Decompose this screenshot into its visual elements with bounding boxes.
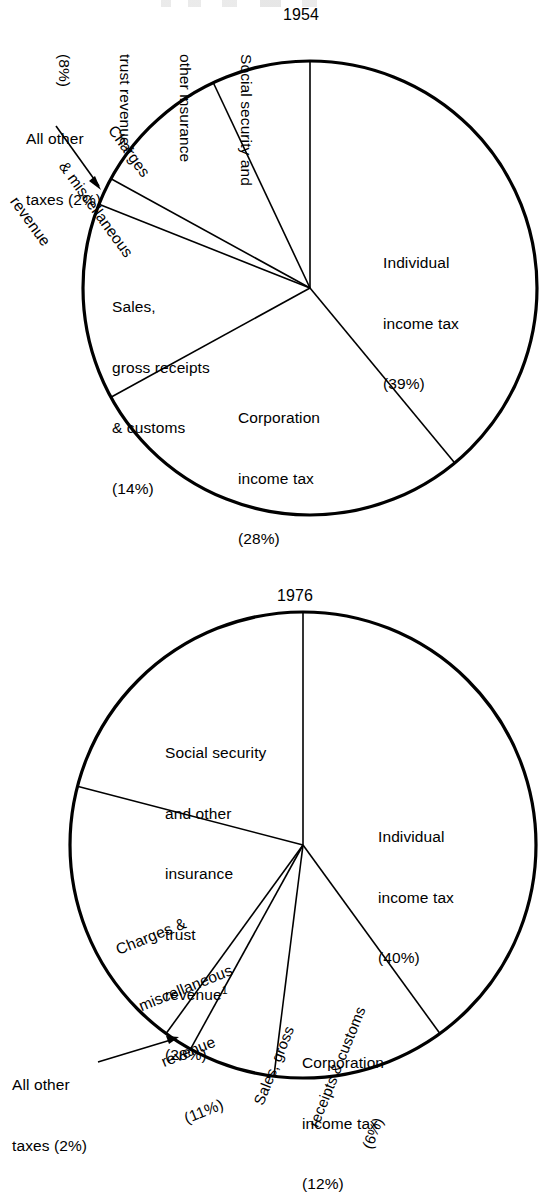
pie-1976-individual-line1: Individual xyxy=(378,827,454,847)
pie-1954-social-label: Social security and other insurance trus… xyxy=(14,54,296,186)
pie-1954-sales-line4: (14%) xyxy=(112,479,210,499)
pie-1976-sales-line1: Sales, gross xyxy=(249,981,315,1107)
pie-1976-sales-line2: receipts & customs xyxy=(303,1003,369,1129)
pie-1976-charges-line1: Charges & xyxy=(113,904,213,960)
pie-1976-year-title: 1976 xyxy=(277,586,313,607)
pie-1954-social-line4: (8%) xyxy=(54,54,74,186)
pie-1954-charges-line3: revenue xyxy=(5,193,89,297)
pie-1954-individual-line2: income tax xyxy=(383,314,459,334)
pie-1954-corporation-line3: (28%) xyxy=(238,529,320,549)
pie-1976-allother-line2: taxes (2%) xyxy=(12,1136,87,1156)
pie-1954-corporation-label: Corporation income tax (28%) xyxy=(238,368,320,590)
pie-1954-sales-line1: Sales, xyxy=(112,297,210,317)
pie-1976-social-line2: and other xyxy=(165,804,266,824)
pie-1954-individual-label: Individual income tax (39%) xyxy=(383,213,459,435)
pie-1954-social-line2: other insurance xyxy=(175,54,195,186)
pie-1954-corporation-line1: Corporation xyxy=(238,408,320,428)
pie-1976-charges-line2: miscellaneous xyxy=(136,960,236,1016)
pie-1954-social-line3: trust revenue xyxy=(117,54,134,146)
pie-1954-social-footnote-marker: 1 xyxy=(124,146,136,152)
pie-1976-sales-line3: (6%) xyxy=(358,1025,424,1151)
pie-1954-sales-label: Sales, gross receipts & customs (14%) xyxy=(112,257,210,539)
pie-1976-individual-line3: (40%) xyxy=(378,948,454,968)
pie-1954-individual-line1: Individual xyxy=(383,253,459,273)
pie-1976-allother-line1: All other xyxy=(12,1075,87,1095)
pie-1954-sales-line2: gross receipts xyxy=(112,358,210,378)
pie-1976-social-line1: Social security xyxy=(165,743,266,763)
pie-1954-corporation-line2: income tax xyxy=(238,469,320,489)
pie-1954-sales-line3: & customs xyxy=(112,418,210,438)
pie-1976-corporation-line3: (12%) xyxy=(302,1174,384,1194)
pie-1976-individual-label: Individual income tax (40%) xyxy=(378,787,454,1009)
pie-1954-individual-line3: (39%) xyxy=(383,374,459,394)
pie-1976-individual-line2: income tax xyxy=(378,888,454,908)
pie-1954-year-title: 1954 xyxy=(283,5,319,26)
pie-1954-social-line3-wrap: trust revenue1 xyxy=(115,54,135,186)
pie-1976-allother-label: All other taxes (2%) xyxy=(12,1035,87,1196)
pie-1954-social-line1: Social security and xyxy=(236,54,256,186)
